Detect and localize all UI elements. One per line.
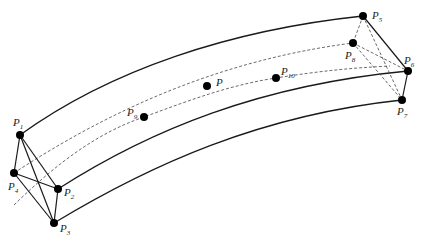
point-p5 [359,12,367,20]
point-p [203,82,211,90]
edge-p2-p3 [54,189,58,223]
label-p10: P10 [280,65,295,80]
label-p7: P7 [396,105,408,120]
edge-p5-p7 [363,16,402,100]
centerline-p9-p10 [14,66,390,205]
label-p3: P3 [59,222,71,237]
point-p9 [140,113,148,121]
label-p1: P1 [12,116,23,131]
edge-p1-p3 [20,135,54,223]
edge-p1-p4 [14,135,20,173]
edge-curve-p3-p7 [54,100,402,223]
label-p8: P8 [344,49,356,64]
point-p2 [54,185,62,193]
point-p4 [10,169,18,177]
point-p10 [272,74,280,82]
edge-p5-p8 [353,16,363,43]
point-p7 [398,96,406,104]
edge-curve-p2-p6 [58,71,408,189]
edge-p1-p2 [20,135,58,189]
label-p4: P4 [7,180,19,195]
edge-curve-p4-p8 [14,43,353,173]
edge-curve-p1-p5 [20,16,363,135]
point-p1 [16,131,24,139]
point-p3 [50,219,58,227]
curved-beam-diagram: P1P2P3P4P5P6P7P8P9P10P [0,0,423,241]
label-p2: P2 [63,186,75,201]
label-p9: P9 [126,106,138,121]
label-p: P [215,76,223,88]
edge-p8-p7 [353,43,402,100]
label-p5: P5 [371,9,383,24]
point-p8 [349,39,357,47]
edge-p6-p7 [402,71,408,100]
